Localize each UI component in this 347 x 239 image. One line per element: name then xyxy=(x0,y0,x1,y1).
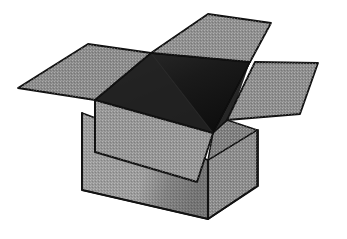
open-box-illustration xyxy=(0,0,347,239)
illustration-canvas: Open cardboard box Black and white halft… xyxy=(0,0,347,239)
